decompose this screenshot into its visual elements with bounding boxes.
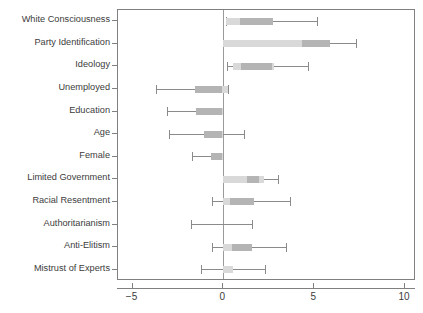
point-estimate-segment xyxy=(247,176,259,183)
whisker-cap-high xyxy=(286,243,287,252)
x-axis-tick xyxy=(313,283,314,288)
whisker-cap-high xyxy=(317,17,318,26)
y-axis-tick xyxy=(112,111,117,112)
y-axis-tick-label: Mistrust of Experts xyxy=(34,264,110,273)
whisker-cap-high xyxy=(356,39,357,48)
y-axis-tick xyxy=(112,246,117,247)
point-estimate-segment xyxy=(230,198,255,205)
x-axis-tick-label: 5 xyxy=(310,292,316,302)
y-axis-tick-label: Anti-Elitism xyxy=(64,242,110,251)
y-axis-tick-label: Education xyxy=(69,106,110,115)
x-axis-tick xyxy=(132,283,133,288)
whisker-cap-low xyxy=(201,265,202,274)
y-axis-tick-label: Unemployed xyxy=(58,83,110,92)
y-axis-tick xyxy=(112,201,117,202)
whisker-cap-high xyxy=(265,265,266,274)
y-axis-tick-label: Racial Resentment xyxy=(32,196,110,205)
x-axis-line xyxy=(117,288,415,289)
x-axis-tick-label: −5 xyxy=(126,292,137,302)
y-axis-tick xyxy=(112,156,117,157)
x-axis-tick-label: 10 xyxy=(399,292,410,302)
point-estimate-segment xyxy=(211,153,223,160)
y-axis-tick xyxy=(112,20,117,21)
y-axis-tick-label: Age xyxy=(94,129,110,138)
x-axis-tick xyxy=(222,283,223,288)
whisker-cap-high xyxy=(278,175,279,184)
whisker-line xyxy=(191,224,253,225)
whisker-cap-low xyxy=(192,152,193,161)
point-estimate-segment xyxy=(204,131,221,138)
whisker-cap-low xyxy=(212,197,213,206)
zero-reference-line xyxy=(223,10,224,279)
coefficient-plot-figure: White ConsciousnessParty IdentificationI… xyxy=(0,0,423,313)
y-axis-tick-label: Authoritarianism xyxy=(44,219,110,228)
whisker-cap-high xyxy=(252,220,253,229)
y-axis-tick xyxy=(112,133,117,134)
y-axis-tick xyxy=(112,88,117,89)
whisker-cap-high xyxy=(290,197,291,206)
y-axis-tick xyxy=(112,224,117,225)
plot-panel xyxy=(117,9,415,280)
whisker-cap-low xyxy=(169,130,170,139)
y-axis-tick xyxy=(112,269,117,270)
y-axis-tick-label: Ideology xyxy=(75,61,110,70)
whisker-cap-high xyxy=(228,85,229,94)
whisker-cap-high xyxy=(308,62,309,71)
whisker-cap-low xyxy=(167,107,168,116)
x-axis-tick-label: 0 xyxy=(220,292,226,302)
y-axis-tick xyxy=(112,178,117,179)
y-axis-tick xyxy=(112,65,117,66)
x-axis-tick xyxy=(404,283,405,288)
point-estimate-segment xyxy=(302,40,330,47)
point-estimate-segment xyxy=(232,244,252,251)
y-axis-tick-label: Limited Government xyxy=(27,174,110,183)
y-axis-tick xyxy=(112,43,117,44)
y-axis-tick-label: Party Identification xyxy=(34,38,110,47)
y-axis-tick-label: Female xyxy=(79,151,110,160)
y-axis-labels: White ConsciousnessParty IdentificationI… xyxy=(0,9,110,280)
point-estimate-segment xyxy=(196,108,222,115)
whisker-cap-low xyxy=(191,220,192,229)
whisker-cap-low xyxy=(156,85,157,94)
whisker-cap-low xyxy=(227,62,228,71)
whisker-cap-high xyxy=(244,130,245,139)
point-estimate-segment xyxy=(195,86,221,93)
whisker-cap-low xyxy=(212,243,213,252)
point-estimate-segment xyxy=(241,63,273,70)
point-estimate-segment xyxy=(240,18,274,25)
inner-interval-band xyxy=(223,266,233,273)
y-axis-tick-label: White Consciousness xyxy=(22,16,110,25)
